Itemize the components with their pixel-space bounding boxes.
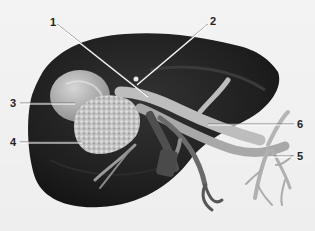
callout-label-1: 1 [50, 17, 56, 28]
callout-label-5: 5 [297, 151, 303, 162]
liver-illustration [0, 0, 315, 231]
callout-label-2: 2 [210, 16, 216, 27]
callout-label-4: 4 [10, 137, 16, 148]
callout-label-6: 6 [297, 119, 303, 130]
liver-anatomy-figure: 1 2 3 4 6 5 [0, 0, 315, 231]
callout-label-3: 3 [10, 98, 16, 109]
